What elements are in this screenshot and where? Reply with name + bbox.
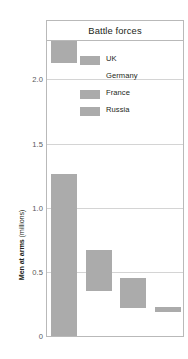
bar-uk (51, 174, 77, 336)
legend-swatch-icon (80, 73, 100, 82)
legend-item-france[interactable]: France (80, 86, 184, 103)
y-tick-label: 2.0 (32, 75, 43, 84)
legend-label: UK (106, 54, 117, 63)
legend-label: France (106, 88, 130, 97)
gridline (47, 144, 183, 145)
bar-uk-upper (51, 41, 77, 63)
legend-item-uk[interactable]: UK (80, 52, 184, 69)
legend-swatch-icon (80, 107, 100, 116)
y-tick-label: 0.5 (32, 267, 43, 276)
y-tick-label: 1.5 (32, 139, 43, 148)
legend-swatch-icon (80, 56, 100, 65)
chart-legend: UKGermanyFranceRussia (80, 52, 184, 120)
legend-label: Germany (106, 71, 138, 80)
chart-title-box: Battle forces (46, 20, 184, 41)
legend-label: Russia (106, 105, 130, 114)
bar-russia (155, 307, 181, 312)
bar-germany (86, 250, 112, 291)
y-axis-tick-labels: 00.51.01.52.0 (0, 0, 46, 359)
bar-france (120, 278, 146, 308)
y-tick-label: 0 (39, 332, 43, 341)
legend-swatch-icon (80, 90, 100, 99)
legend-item-germany[interactable]: Germany (80, 69, 184, 86)
y-tick-label: 1.0 (32, 203, 43, 212)
chart-figure: Men at arms (millions) 00.51.01.52.0 Bat… (0, 0, 188, 359)
chart-title: Battle forces (88, 25, 141, 36)
legend-item-russia[interactable]: Russia (80, 103, 184, 120)
